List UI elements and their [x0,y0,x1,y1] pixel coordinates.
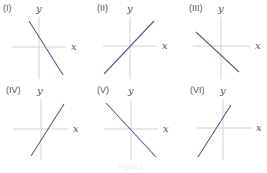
panel-label: (VI) [190,85,205,95]
panel-4: (IV) y x [6,85,79,160]
panel-label: (I) [3,3,12,13]
x-axis-label: x [73,123,79,134]
panel-1: (I) y x [3,3,77,79]
x-axis-label: x [162,40,168,51]
y-axis-label: y [127,85,134,96]
graph-line [104,21,154,74]
figure-caption: Figure 1. [118,163,146,171]
graph-line [198,105,231,157]
x-axis-label: x [71,41,77,52]
y-axis-label: y [219,85,226,96]
panel-6: (VI) y x [190,85,262,160]
panel-5: (V) y x [97,85,169,160]
y-axis-label: y [36,85,43,96]
panel-label: (III) [189,3,203,13]
panel-2: (II) y x [97,3,168,79]
graph-line [196,32,239,72]
panel-3: (III) y x [189,3,261,79]
x-axis-label: x [163,123,169,134]
y-axis-label: y [126,3,133,14]
panel-label: (V) [97,85,109,95]
panel-label: (II) [97,3,108,13]
y-axis-label: y [35,3,42,14]
graph-line [31,104,64,156]
x-axis-label: x [256,122,262,133]
graph-line [29,21,63,75]
y-axis-label: y [217,3,224,14]
figure-six-line-graphs: (I) y x (II) y x (III) y x (IV) y x (V) … [0,0,267,173]
x-axis-label: x [255,40,261,51]
panel-label: (IV) [6,85,21,95]
